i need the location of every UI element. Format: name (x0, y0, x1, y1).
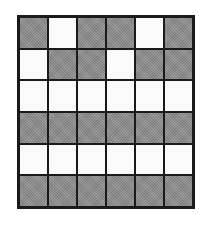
white-cell (164, 144, 193, 176)
gray-cell (164, 49, 193, 81)
white-cell (19, 80, 48, 112)
white-cell (164, 80, 193, 112)
gray-cell (48, 49, 77, 81)
gray-cell (48, 175, 77, 207)
white-cell (106, 80, 135, 112)
gray-cell (77, 112, 106, 144)
gray-cell (164, 17, 193, 49)
gray-cell (77, 175, 106, 207)
white-cell (77, 80, 106, 112)
white-cell (106, 49, 135, 81)
white-cell (106, 144, 135, 176)
gray-cell (135, 175, 164, 207)
gray-cell (135, 49, 164, 81)
gray-cell (77, 49, 106, 81)
gray-cell (164, 175, 193, 207)
white-cell (135, 80, 164, 112)
gray-cell (164, 112, 193, 144)
pattern-grid (17, 15, 195, 209)
white-cell (135, 144, 164, 176)
white-cell (77, 144, 106, 176)
gray-cell (106, 112, 135, 144)
gray-cell (19, 112, 48, 144)
white-cell (135, 17, 164, 49)
gray-cell (106, 17, 135, 49)
white-cell (19, 144, 48, 176)
white-cell (48, 144, 77, 176)
white-cell (48, 80, 77, 112)
white-cell (48, 17, 77, 49)
gray-cell (48, 112, 77, 144)
gray-cell (106, 175, 135, 207)
white-cell (19, 49, 48, 81)
gray-cell (77, 17, 106, 49)
gray-cell (135, 112, 164, 144)
gray-cell (19, 17, 48, 49)
gray-cell (19, 175, 48, 207)
